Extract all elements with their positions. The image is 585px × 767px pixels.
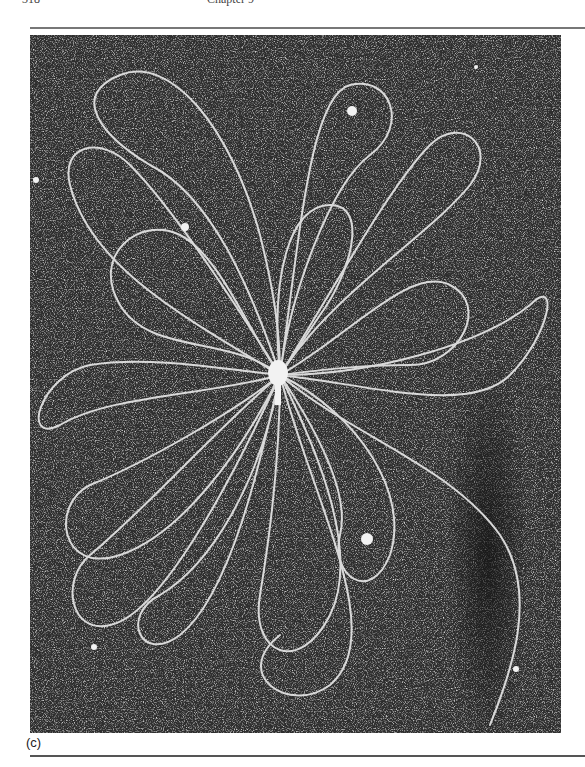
electron-micrograph bbox=[30, 35, 561, 733]
panel-label: (c) bbox=[26, 735, 41, 750]
page-number: 318 bbox=[22, 0, 40, 6]
running-head: 318 Chapter 9 bbox=[22, 0, 40, 7]
top-rule bbox=[30, 27, 585, 29]
bottom-rule bbox=[30, 755, 585, 757]
running-head-title: Chapter 9 bbox=[207, 0, 254, 7]
